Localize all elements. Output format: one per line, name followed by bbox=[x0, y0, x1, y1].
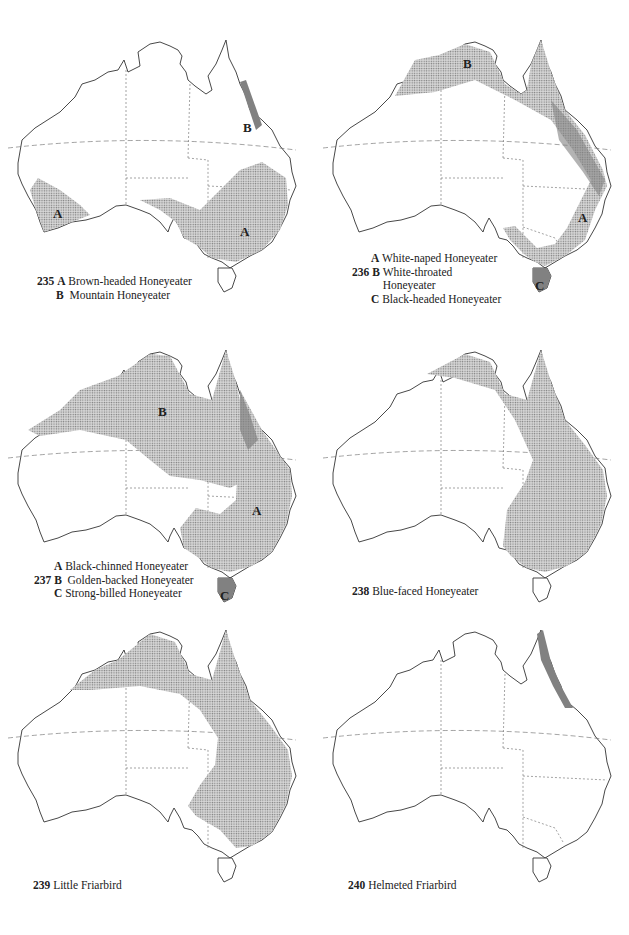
map-number: 240 bbox=[348, 879, 365, 891]
map-label-b: B bbox=[158, 404, 167, 419]
map-label-c: C bbox=[535, 278, 544, 293]
species-name: Black-chinned Honeyeater bbox=[65, 560, 188, 572]
map-label-b: B bbox=[463, 56, 472, 71]
caption-letter: B bbox=[372, 266, 380, 278]
map-label-a: A bbox=[240, 224, 250, 239]
map-panel-235: A B A 235 A Brown-headed Honeyeater B Mo… bbox=[0, 0, 314, 310]
map-label-a: A bbox=[53, 206, 63, 221]
species-name: Brown-headed Honeyeater bbox=[68, 275, 192, 287]
species-name: Blue-faced Honeyeater bbox=[372, 585, 478, 597]
caption-letter: C bbox=[371, 293, 379, 305]
species-name: Black-headed Honeyeater bbox=[382, 293, 501, 305]
species-name: Mountain Honeyeater bbox=[69, 289, 170, 301]
species-name: Golden-backed Honeyeater bbox=[68, 574, 194, 586]
map-caption: 240 Helmeted Friarbird bbox=[348, 879, 457, 893]
map-caption: A White-naped Honeyeater 236 B White-thr… bbox=[352, 252, 501, 306]
map-panel-236: B A C A White-naped Honeyeater 236 B Whi… bbox=[315, 0, 629, 310]
australia-map bbox=[315, 310, 629, 620]
map-caption: 235 A Brown-headed Honeyeater B Mountain… bbox=[37, 275, 192, 302]
caption-letter: A bbox=[57, 275, 65, 287]
map-panel-238: 238 Blue-faced Honeyeater bbox=[315, 310, 629, 620]
caption-letter: B bbox=[56, 289, 64, 301]
map-number: 239 bbox=[33, 879, 50, 891]
map-panel-237: B A C A Black-chinned Honeyeater 237 B G… bbox=[0, 310, 314, 620]
species-name: Little Friarbird bbox=[53, 879, 122, 891]
species-name: Helmeted Friarbird bbox=[368, 879, 456, 891]
caption-letter: A bbox=[54, 560, 62, 572]
species-name: White-naped Honeyeater bbox=[382, 252, 497, 264]
caption-letter: B bbox=[54, 574, 62, 586]
map-label-a: A bbox=[578, 210, 588, 225]
map-number: 236 bbox=[352, 266, 369, 278]
caption-letter: A bbox=[371, 252, 379, 264]
species-name: Strong-billed Honeyeater bbox=[65, 587, 182, 599]
map-label-c: C bbox=[220, 588, 229, 603]
map-number: 235 bbox=[37, 275, 54, 287]
caption-letter: C bbox=[54, 587, 62, 599]
species-name: White-throated Honeyeater bbox=[383, 266, 459, 293]
map-caption: A Black-chinned Honeyeater 237 B Golden-… bbox=[34, 560, 194, 601]
australia-map: A B A bbox=[0, 0, 314, 310]
map-label-b: B bbox=[243, 120, 252, 135]
map-number: 238 bbox=[352, 585, 369, 597]
map-panel-240: 240 Helmeted Friarbird bbox=[315, 620, 629, 930]
map-number: 237 bbox=[34, 574, 51, 586]
map-caption: 239 Little Friarbird bbox=[33, 879, 122, 893]
map-label-a: A bbox=[252, 503, 262, 518]
map-panel-239: 239 Little Friarbird bbox=[0, 620, 314, 930]
map-caption: 238 Blue-faced Honeyeater bbox=[352, 585, 478, 599]
